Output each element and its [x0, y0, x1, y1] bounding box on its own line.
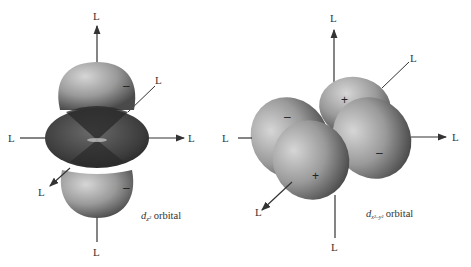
orbital-figure: L L L L L L – – dz² orbital L: [0, 0, 471, 267]
caption-dz2: dz² orbital: [141, 210, 181, 223]
ligand-label-right-2: L: [452, 131, 459, 143]
ligand-label-top: L: [93, 10, 100, 22]
axis-y-back-2: [382, 62, 409, 88]
ligand-label-front: L: [38, 186, 45, 198]
ligand-label-bottom: L: [93, 246, 100, 258]
caption-dx2-y2: dx²–y² orbital: [366, 208, 413, 220]
ligand-label-top-2: L: [330, 12, 337, 24]
ligand-label-right: L: [188, 132, 195, 144]
ligand-label-back: L: [155, 74, 162, 86]
sign-back-left: –: [284, 110, 291, 124]
dz2-diagram: L L L L L L – – dz² orbital: [8, 10, 195, 258]
sign-front-left: +: [312, 169, 319, 183]
ligand-label-left: L: [8, 132, 15, 144]
ligand-label-back-2: L: [410, 52, 417, 64]
sign-top-lobe: –: [123, 79, 130, 93]
sign-bottom-lobe: –: [123, 181, 130, 195]
sign-front-right: –: [376, 146, 383, 160]
sign-back-right: +: [341, 93, 348, 107]
ligand-label-bottom-2: L: [331, 241, 338, 253]
axis-y-front-2: [262, 182, 292, 210]
ligand-label-front-2: L: [255, 206, 262, 218]
dx2-y2-diagram: L L L L L L + – + – dx²–y² orbital: [222, 12, 459, 253]
ligand-label-left-2: L: [222, 132, 229, 144]
